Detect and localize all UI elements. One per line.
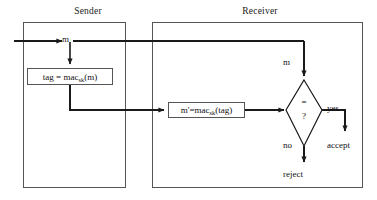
diagram-canvas xyxy=(0,0,377,200)
sender-mac-subscript: sk xyxy=(78,76,84,83)
sender-title: Sender xyxy=(52,6,124,16)
edge-tag-to-receiver-mac xyxy=(70,85,164,110)
edge-yes-to-accept xyxy=(322,110,345,131)
receiver-mac-tail: (tag) xyxy=(215,105,232,115)
decision-operator: = xyxy=(295,97,313,107)
decision-query: ? xyxy=(295,111,313,121)
receiver-title: Receiver xyxy=(200,6,320,16)
sender-mac-text: tag = mac xyxy=(43,72,79,82)
sender-container xyxy=(24,23,126,188)
sender-mac-box: tag = macsk(m) xyxy=(27,68,113,85)
label-message-sender: m xyxy=(62,34,69,44)
receiver-mac-subscript: sk xyxy=(209,109,215,116)
label-message-receiver: m xyxy=(283,57,290,67)
terminal-reject: reject xyxy=(283,169,303,179)
label-yes: yes xyxy=(327,103,339,113)
terminal-accept: accept xyxy=(327,140,350,150)
sender-mac-tail: (m) xyxy=(84,72,97,82)
label-no: no xyxy=(283,140,292,150)
diagram-root: Sender Receiver tag = macsk(m) m'=macsk(… xyxy=(0,0,377,200)
receiver-mac-box: m'=macsk(tag) xyxy=(168,102,245,118)
receiver-mac-text: m'=mac xyxy=(181,105,210,115)
